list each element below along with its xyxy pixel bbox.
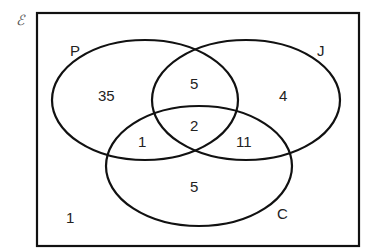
region-c-only: 5 [190, 178, 198, 195]
set-j-label: J [317, 42, 325, 59]
region-p-j-only: 5 [190, 75, 198, 92]
region-p-only: 35 [98, 87, 115, 104]
region-p-j-c: 2 [190, 117, 198, 134]
universal-set-symbol: ℰ [16, 12, 26, 28]
set-p-label: P [70, 42, 80, 59]
region-p-c-only: 1 [138, 133, 146, 150]
region-j-c-only: 11 [236, 133, 252, 150]
set-c-ellipse [106, 106, 292, 226]
set-c-label: C [277, 205, 288, 222]
region-outside: 1 [66, 209, 74, 226]
venn-diagram: ℰ P J C 35 5 4 2 1 11 5 1 [0, 0, 375, 249]
region-j-only: 4 [279, 87, 287, 104]
